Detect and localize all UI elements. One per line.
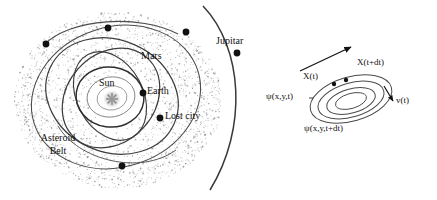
label-psi-t-dt: ψ(x,y,t+dt) — [304, 124, 343, 133]
label-earth: Earth — [147, 86, 169, 97]
displacement-vector-arrow — [300, 47, 351, 71]
marker-upper-left — [43, 41, 50, 48]
marker-lost-city — [157, 115, 164, 122]
diagram-svg — [0, 0, 437, 200]
marker-jupiter — [234, 50, 241, 57]
label-psi-t: ψ(x,y,t) — [266, 92, 293, 101]
marker-top — [105, 25, 112, 32]
flow-ellipses — [305, 66, 398, 131]
label-x-t: X(t) — [303, 72, 318, 81]
flow-ellipse-outer — [305, 66, 398, 131]
flow-ellipse-inner — [324, 83, 379, 120]
point-x-t-dt — [344, 78, 348, 82]
label-x-t-dt: X(t+dt) — [357, 58, 384, 67]
marker-earth — [140, 90, 147, 97]
flow-ellipse-mid — [314, 74, 389, 125]
sun-body — [103, 90, 121, 108]
label-jupiter: Jupitar — [216, 36, 243, 47]
orbit-jupiter-arc — [203, 6, 236, 190]
label-mars: Mars — [141, 51, 162, 62]
figure-canvas: Sun Earth Mars Jupitar Lost city Asteroi… — [0, 0, 437, 200]
marker-mars-orbit — [183, 29, 190, 36]
point-x-t — [332, 82, 336, 86]
label-v-t: v(t) — [396, 96, 409, 105]
label-asteroid-belt-line2: Belt — [30, 146, 86, 157]
marker-bottom — [119, 163, 126, 170]
label-asteroid-belt-line1: Asteroid — [30, 133, 86, 144]
label-sun: Sun — [99, 78, 115, 89]
label-lost-city: Lost city — [165, 111, 200, 122]
